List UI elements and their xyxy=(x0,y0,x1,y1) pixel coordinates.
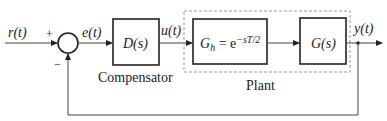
control-signal-label: u(t) xyxy=(161,23,182,39)
hold-label-eq: = e xyxy=(215,36,236,51)
compensator-caption: Compensator xyxy=(98,70,173,85)
output-signal-label: y(t) xyxy=(352,21,374,37)
input-signal-label: r(t) xyxy=(8,25,27,41)
minus-sign: − xyxy=(54,57,61,71)
compensator-label: D(s) xyxy=(122,36,148,52)
plant-caption: Plant xyxy=(246,78,275,93)
plant-tf-label: G(s) xyxy=(311,36,336,52)
hold-label-exp: −sT/2 xyxy=(236,34,260,45)
hold-label-main: G xyxy=(200,36,210,51)
block-diagram: r(t) + − e(t) D(s) Compensator u(t) Plan… xyxy=(0,0,387,121)
error-signal-label: e(t) xyxy=(82,25,102,41)
plus-sign: + xyxy=(46,27,53,41)
summing-junction xyxy=(58,33,78,53)
